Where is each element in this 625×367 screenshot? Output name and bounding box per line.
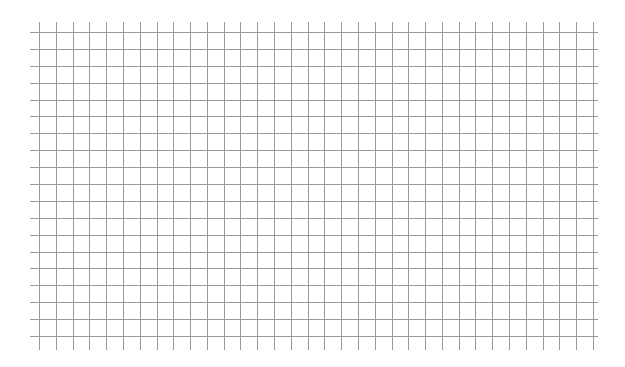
- empty-grid-plot: [0, 0, 625, 367]
